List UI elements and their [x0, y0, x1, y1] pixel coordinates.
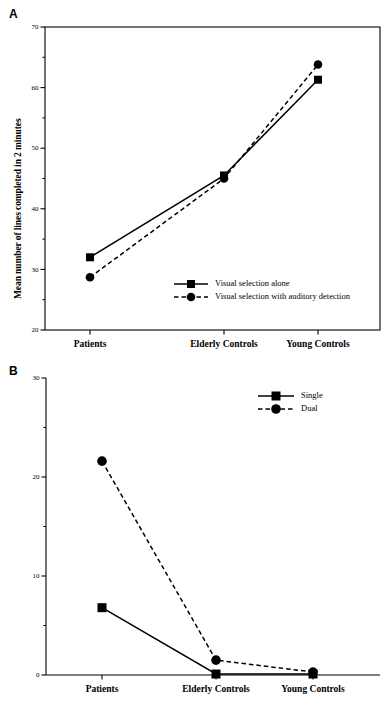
- x-category-label: Elderly Controls: [182, 684, 250, 694]
- series-line-2: [102, 461, 313, 672]
- data-point-circle: [86, 273, 95, 282]
- series-line-2: [90, 65, 318, 278]
- legend-label-1: Single: [301, 390, 323, 400]
- x-category-label: Elderly Controls: [190, 339, 258, 349]
- data-point-circle: [308, 667, 318, 677]
- panel-b: B Auditory detection errors (%) 0102030P…: [0, 357, 387, 713]
- x-category-label: Young Controls: [286, 339, 350, 349]
- x-category-label: Patients: [74, 339, 107, 349]
- data-point-circle: [97, 456, 107, 466]
- legend-label-2: Dual: [301, 403, 318, 413]
- plot-frame: [45, 27, 380, 330]
- y-tick-label: 10: [33, 572, 41, 580]
- y-tick-label: 50: [32, 144, 40, 152]
- series-line-1: [90, 80, 318, 258]
- panel-a: A Mean number of lines completed in 2 mi…: [0, 0, 387, 357]
- legend-marker-circle: [271, 404, 281, 414]
- legend-marker-circle: [187, 293, 196, 302]
- figure-container: A Mean number of lines completed in 2 mi…: [0, 0, 387, 713]
- y-tick-label: 30: [33, 374, 41, 382]
- x-category-label: Young Controls: [281, 684, 345, 694]
- data-point-circle: [220, 174, 229, 183]
- data-point-circle: [314, 60, 323, 69]
- data-point-square: [98, 603, 107, 612]
- legend-marker-square: [272, 392, 281, 401]
- y-tick-label: 60: [32, 84, 40, 92]
- data-point-square: [86, 253, 94, 261]
- y-tick-label: 40: [32, 205, 40, 213]
- panel-a-plot: 203040506070PatientsElderly ControlsYoun…: [0, 0, 387, 357]
- y-tick-label: 20: [33, 473, 41, 481]
- data-point-square: [212, 670, 221, 679]
- legend-label-2: Visual selection with auditory detection: [215, 291, 351, 301]
- legend-label-1: Visual selection alone: [215, 278, 290, 288]
- y-tick-label: 20: [32, 326, 40, 334]
- y-tick-label: 70: [32, 23, 40, 31]
- y-tick-label: 30: [32, 266, 40, 274]
- x-category-label: Patients: [86, 684, 119, 694]
- legend-marker-square: [187, 280, 195, 288]
- data-point-circle: [211, 655, 221, 665]
- y-tick-label: 0: [36, 671, 40, 679]
- panel-b-plot: 0102030PatientsElderly ControlsYoung Con…: [0, 357, 387, 713]
- series-line-1: [102, 608, 313, 674]
- data-point-square: [314, 76, 322, 84]
